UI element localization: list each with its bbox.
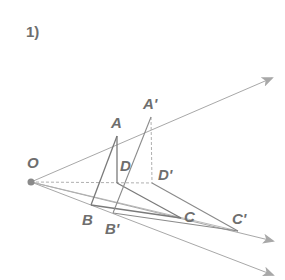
ray-OB: [31, 182, 273, 275]
label-C: C: [184, 208, 196, 225]
label-D: D: [120, 157, 131, 174]
label-C-prime: C': [232, 210, 247, 227]
label-B: B: [82, 211, 93, 228]
dashed-OD: [31, 182, 152, 183]
ray-OC-inner: [31, 182, 238, 231]
ray-OA: [31, 78, 272, 182]
label-A: A: [110, 114, 122, 131]
label-A-prime: A': [142, 95, 158, 112]
label-O: O: [27, 154, 39, 171]
homothety-diagram: 1) O A A' D D' B B' C C': [0, 0, 285, 280]
label-B-prime: B': [105, 220, 120, 237]
point-O: [28, 179, 35, 186]
problem-number: 1): [26, 23, 39, 40]
dashed-AD-prime: [151, 117, 152, 183]
label-D-prime: D': [158, 166, 173, 183]
tetrahedron-A-prime: [113, 117, 238, 231]
